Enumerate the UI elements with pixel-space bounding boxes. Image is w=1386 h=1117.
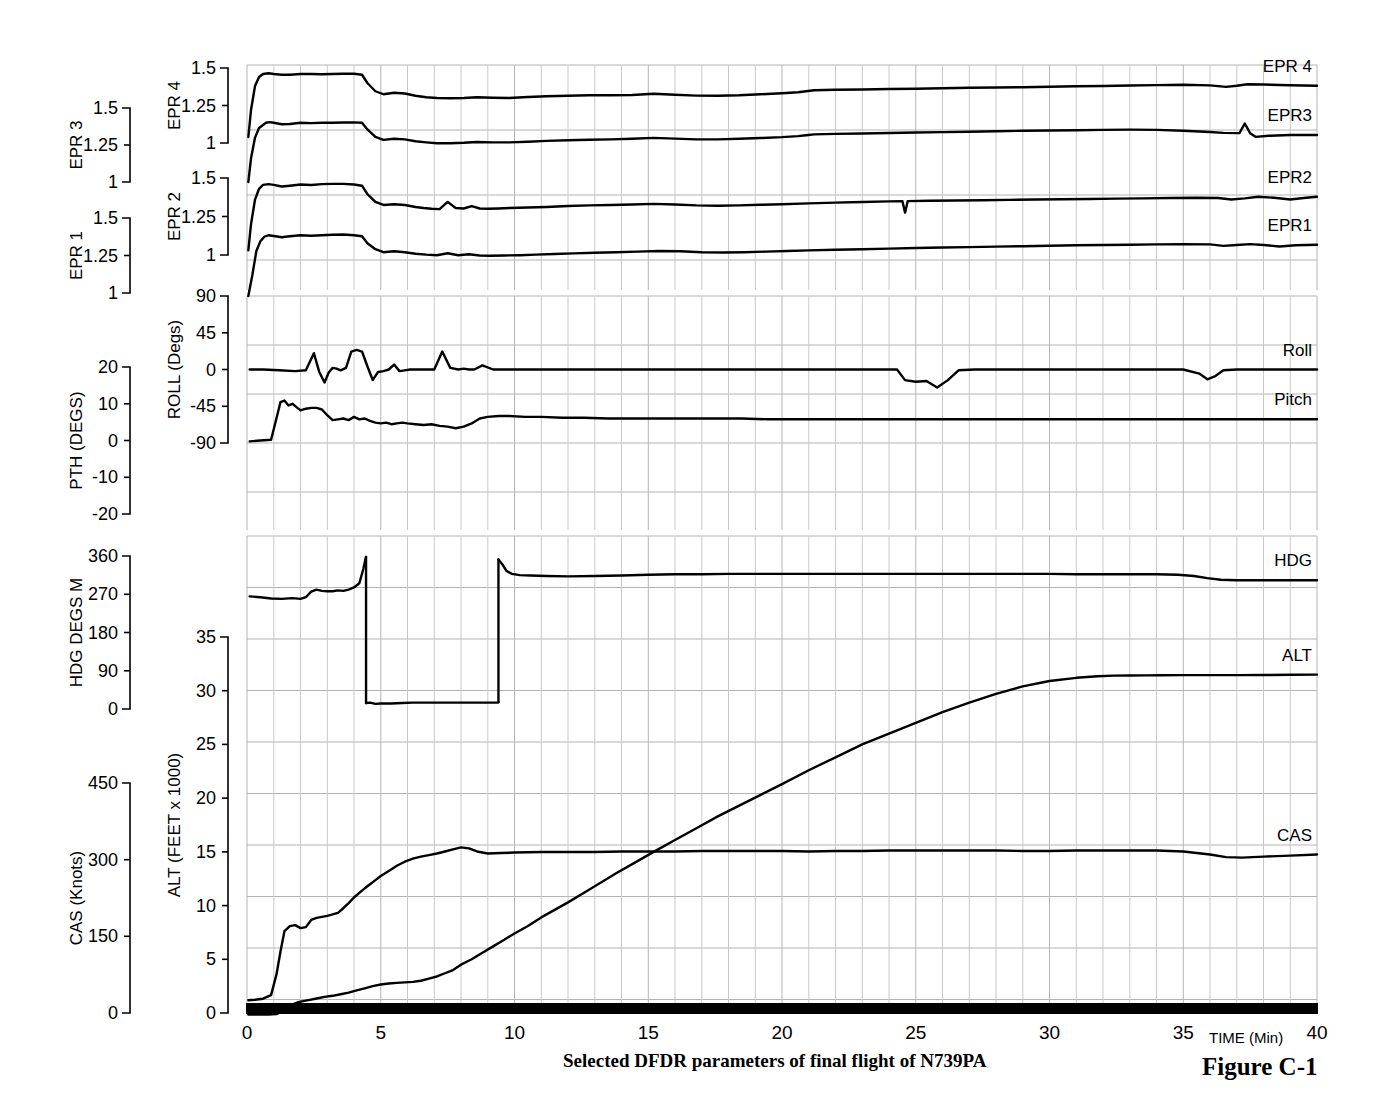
axis-alt-cas-outer-tick-label: 0: [108, 1003, 118, 1023]
figure-caption: Selected DFDR parameters of final flight…: [563, 1050, 987, 1071]
x-axis-tick-label: 20: [771, 1022, 792, 1043]
axis-epr-lower-outer-tick-label: 1.5: [93, 208, 118, 228]
axis-epr-upper-outer-tick-label: 1.5: [93, 98, 118, 118]
x-axis-tick-label: 15: [638, 1022, 659, 1043]
axis-alt-cas-inner-tick-label: 20: [196, 788, 216, 808]
axis-epr-lower-outer-tick-label: 1: [108, 283, 118, 303]
axis-epr-upper-inner-tick-label: 1.5: [191, 58, 216, 78]
axis-alt-cas-inner-title: ALT (FEET x 1000): [165, 753, 184, 898]
series-label-epr-3: EPR3: [1268, 106, 1312, 125]
x-axis-tick-label: 35: [1173, 1022, 1194, 1043]
axis-attitude-inner-tick-label: -90: [190, 433, 216, 453]
axis-alt-cas-inner-tick-label: 35: [196, 627, 216, 647]
axis-attitude-outer-tick-label: 10: [98, 394, 118, 414]
series-label-cas: CAS: [1277, 826, 1312, 845]
axis-epr-lower-outer-tick-label: 1.25: [83, 246, 118, 266]
trace-hdg: [366, 702, 498, 704]
axis-epr-lower-inner-tick-label: 1: [206, 245, 216, 265]
figure-number: Figure C-1: [1202, 1053, 1318, 1080]
axis-heading-outer-tick-label: 360: [88, 546, 118, 566]
axis-attitude-inner-tick-label: 0: [206, 360, 216, 380]
axis-heading-outer-tick-label: 90: [98, 661, 118, 681]
axis-epr-upper-outer-tick-label: 1: [108, 172, 118, 192]
axis-alt-cas-inner-tick-label: 0: [206, 1003, 216, 1023]
series-label-epr-4: EPR 4: [1263, 57, 1312, 76]
grid-layer: [247, 65, 1317, 1013]
axis-alt-cas-outer-tick-label: 150: [88, 926, 118, 946]
axis-attitude-outer-tick-label: 0: [108, 431, 118, 451]
series-label-epr-1: EPR1: [1268, 216, 1312, 235]
axis-attitude-inner-tick-label: 90: [196, 286, 216, 306]
axis-alt-cas-inner-tick-label: 5: [206, 949, 216, 969]
axis-epr-upper-outer-title: EPR 3: [67, 120, 86, 169]
series-label-hdg: HDG: [1274, 551, 1312, 570]
dfdr-chart-svg: 11.251.5EPR 311.251.5EPR 411.251.5EPR 11…: [0, 0, 1386, 1117]
axis-attitude-inner-title: ROLL (Degs): [165, 320, 184, 420]
axis-alt-cas-outer-title: CAS (Knots): [67, 851, 86, 945]
axis-attitude-inner-tick-label: 45: [196, 323, 216, 343]
axis-attitude-outer-tick-label: 20: [98, 357, 118, 377]
dfdr-figure: 11.251.5EPR 311.251.5EPR 411.251.5EPR 11…: [0, 0, 1386, 1117]
axis-heading-outer-tick-label: 180: [88, 623, 118, 643]
axis-heading-outer-tick-label: 270: [88, 584, 118, 604]
x-axis-tick-label: 30: [1039, 1022, 1060, 1043]
axis-epr-lower-inner-tick-label: 1.5: [191, 168, 216, 188]
axis-alt-cas-outer-tick-label: 300: [88, 850, 118, 870]
x-axis-title: TIME (Min): [1209, 1029, 1283, 1046]
x-axis-tick-label: 10: [504, 1022, 525, 1043]
series-label-alt: ALT: [1282, 646, 1312, 665]
x-axis-tick-label: 5: [376, 1022, 387, 1043]
series-label-epr-2: EPR2: [1268, 168, 1312, 187]
axis-alt-cas-inner-tick-label: 30: [196, 681, 216, 701]
axis-heading-outer-title: HDG DEGS M: [67, 578, 86, 688]
axis-epr-lower-outer-title: EPR 1: [67, 231, 86, 280]
axis-epr-upper-outer-tick-label: 1.25: [83, 135, 118, 155]
axis-alt-cas-inner-tick-label: 25: [196, 734, 216, 754]
axis-epr-upper-inner-title: EPR 4: [165, 81, 184, 130]
axis-epr-upper-inner-tick-label: 1.25: [181, 96, 216, 116]
axis-attitude-outer-tick-label: -10: [92, 467, 118, 487]
axis-epr-upper-inner-tick-label: 1: [206, 133, 216, 153]
axis-heading-outer-tick-label: 0: [108, 699, 118, 719]
axis-attitude-inner-tick-label: -45: [190, 396, 216, 416]
series-label-roll: Roll: [1283, 341, 1312, 360]
x-axis-tick-label: 0: [242, 1022, 253, 1043]
x-axis-tick-label: 40: [1306, 1022, 1327, 1043]
axis-alt-cas-inner-tick-label: 15: [196, 842, 216, 862]
axis-attitude-outer-tick-label: -20: [92, 504, 118, 524]
axis-attitude-outer-title: PTH (DEGS): [67, 391, 86, 489]
series-label-pitch: Pitch: [1274, 390, 1312, 409]
axis-alt-cas-inner-tick-label: 10: [196, 896, 216, 916]
x-axis-tick-label: 25: [905, 1022, 926, 1043]
axis-epr-lower-inner-title: EPR 2: [165, 192, 184, 241]
axis-alt-cas-outer-tick-label: 450: [88, 773, 118, 793]
axis-epr-lower-inner-tick-label: 1.25: [181, 207, 216, 227]
